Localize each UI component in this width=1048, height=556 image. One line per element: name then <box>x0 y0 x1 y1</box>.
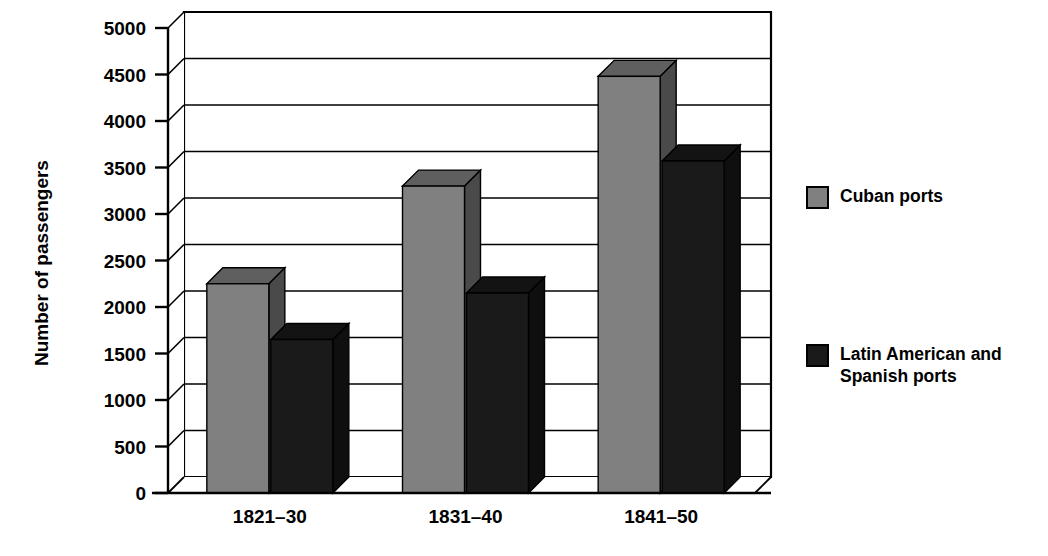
legend-entry: Latin American and Spanish ports <box>806 343 1030 388</box>
x-axis-tick-label: 1821–30 <box>233 506 307 528</box>
legend-label: Latin American and Spanish ports <box>840 343 1030 388</box>
legend-swatch-icon <box>806 344 829 367</box>
plot-area <box>0 0 1048 556</box>
bar <box>662 145 740 493</box>
legend-label: Cuban ports <box>840 185 943 207</box>
bar-chart: Number of passengers 0500100015002000250… <box>0 0 1048 556</box>
x-axis-tick-label: 1831–40 <box>429 506 503 528</box>
x-axis-tick-label: 1841–50 <box>624 506 698 528</box>
bar <box>271 324 349 493</box>
legend-entry: Cuban ports <box>806 185 943 209</box>
legend-swatch-icon <box>806 186 829 209</box>
bar <box>467 277 545 493</box>
